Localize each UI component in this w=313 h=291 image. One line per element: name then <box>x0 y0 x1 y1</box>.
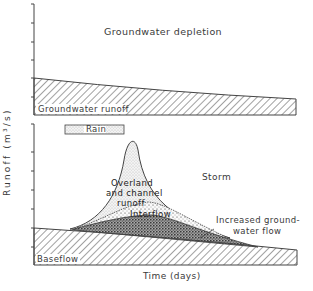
increased-groundwater-label-line1: Increased ground- <box>216 215 300 225</box>
storm-label: Storm <box>202 172 231 182</box>
overland-label-line1: Overland <box>111 178 153 188</box>
baseflow-label: Baseflow <box>37 254 78 264</box>
interflow-label: Interflow <box>130 209 171 219</box>
bottom-panel <box>31 124 297 265</box>
increased-groundwater-label-line2: water flow <box>233 226 281 236</box>
groundwater-runoff-label: Groundwater runoff <box>38 104 129 114</box>
y-axis-label: Runoff (m³/s) <box>2 108 12 196</box>
top-panel <box>31 4 296 115</box>
hydrograph-diagram <box>0 0 313 291</box>
overland-label-line3: runoff <box>117 198 145 208</box>
x-axis-label: Time (days) <box>143 271 201 281</box>
rain-label: Rain <box>86 124 106 134</box>
top-panel-title: Groundwater depletion <box>104 26 222 37</box>
overland-label-line2: and channel <box>106 188 163 198</box>
